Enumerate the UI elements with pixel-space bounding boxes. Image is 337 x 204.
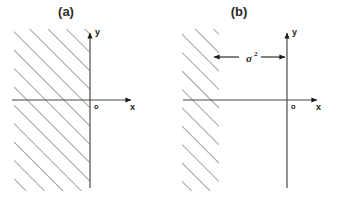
math-figure: (a) y x o (b) y x o σ 2 bbox=[0, 0, 337, 204]
panel-b-label: (b) bbox=[231, 4, 248, 19]
panel-a-label: (a) bbox=[58, 4, 74, 19]
sigma-squared-annotation: σ 2 bbox=[214, 50, 285, 64]
panel-a-y-axis-label: y bbox=[95, 27, 100, 37]
panel-b-hatched-region bbox=[182, 29, 219, 191]
panel-a-x-axis-label: x bbox=[130, 102, 135, 112]
panel-b-x-axis-label: x bbox=[316, 102, 321, 112]
sigma-symbol: σ bbox=[246, 52, 253, 64]
panel-a-hatched-region bbox=[14, 29, 90, 191]
panel-b-origin-label: o bbox=[291, 102, 296, 111]
panel-a-origin-label: o bbox=[94, 102, 99, 111]
panel-a: (a) y x o bbox=[12, 4, 135, 191]
sigma-exponent: 2 bbox=[254, 50, 258, 58]
panel-b: (b) y x o σ 2 bbox=[182, 4, 321, 191]
figure-canvas: (a) y x o (b) y x o σ 2 bbox=[0, 0, 337, 204]
panel-b-y-axis-label: y bbox=[292, 27, 297, 37]
